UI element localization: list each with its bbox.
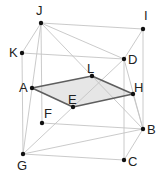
point-J: [39, 21, 43, 25]
edge-JI: [41, 23, 143, 29]
edge-GC: [23, 154, 124, 160]
point-A: [30, 86, 34, 90]
label-A: A: [19, 80, 28, 95]
label-K: K: [9, 45, 18, 60]
point-I: [141, 27, 145, 31]
edge-KG: [22, 53, 23, 154]
label-F: F: [44, 106, 52, 121]
point-F: [40, 121, 44, 125]
edge-JF: [41, 23, 42, 123]
label-E: E: [68, 92, 77, 107]
point-K: [20, 51, 24, 55]
point-G: [21, 152, 25, 156]
label-G: G: [17, 158, 27, 173]
edge-GB: [23, 129, 143, 154]
edge-JD: [41, 23, 124, 59]
label-D: D: [128, 52, 137, 67]
point-C: [122, 158, 126, 162]
edge-FB: [42, 123, 143, 129]
point-B: [141, 127, 145, 131]
label-I: I: [144, 8, 148, 23]
edge-JK: [22, 23, 41, 53]
edge-KD: [22, 53, 124, 59]
point-D: [122, 57, 126, 61]
label-J: J: [36, 3, 43, 18]
label-H: H: [134, 80, 143, 95]
label-B: B: [147, 122, 156, 137]
label-L: L: [87, 61, 94, 76]
cube-diagram: JIKDLAHEFBGC: [0, 0, 163, 176]
label-C: C: [128, 154, 137, 169]
